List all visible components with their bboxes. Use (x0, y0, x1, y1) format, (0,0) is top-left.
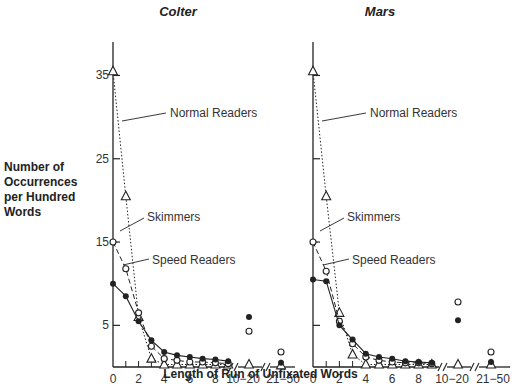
triangle-marker-icon (348, 350, 357, 359)
open-circle-marker-icon (278, 349, 284, 355)
leader-line (123, 259, 149, 265)
open-circle-marker-icon (323, 268, 329, 274)
open-circle-marker-icon (136, 310, 142, 316)
filled-circle-marker-icon (363, 351, 369, 357)
filled-circle-marker-icon (278, 360, 284, 366)
leader-line (323, 259, 349, 265)
y-tick-label: 35 (96, 68, 110, 82)
y-axis-label: Number of Occurrences per Hundred Words (4, 160, 104, 220)
annotation-normal-readers: Normal Readers (170, 106, 257, 120)
filled-circle-marker-icon (310, 277, 316, 283)
filled-circle-marker-icon (350, 337, 356, 343)
annotation-normal-readers: Normal Readers (370, 106, 457, 120)
leader-line (320, 218, 344, 231)
filled-circle-marker-icon (161, 349, 167, 355)
triangle-marker-icon (147, 354, 156, 363)
y-tick-label: 15 (96, 235, 110, 249)
filled-circle-marker-icon (416, 359, 422, 365)
panel-title: Mars (365, 4, 395, 19)
open-circle-marker-icon (455, 299, 461, 305)
open-circle-marker-icon (161, 356, 167, 362)
filled-circle-marker-icon (376, 354, 382, 360)
filled-circle-marker-icon (200, 356, 206, 362)
open-circle-marker-icon (123, 266, 129, 272)
filled-circle-marker-icon (123, 293, 129, 299)
filled-circle-marker-icon (402, 358, 408, 364)
triangle-marker-icon (121, 191, 130, 200)
open-circle-marker-icon (246, 328, 252, 334)
filled-circle-marker-icon (110, 281, 116, 287)
filled-circle-marker-icon (246, 314, 252, 320)
open-circle-marker-icon (488, 349, 494, 355)
panel-title: Colter (159, 4, 198, 19)
y-axis-label-line: Number of (4, 160, 104, 175)
leader-line (322, 113, 366, 121)
series-line-speed-readers (113, 284, 228, 361)
filled-circle-marker-icon (455, 317, 461, 323)
y-tick-label: 5 (102, 318, 109, 332)
leader-line (122, 113, 166, 121)
annotation-speed-readers: Speed Readers (352, 253, 435, 267)
open-circle-marker-icon (148, 343, 154, 349)
filled-circle-marker-icon (212, 357, 218, 363)
filled-circle-marker-icon (389, 356, 395, 362)
triangle-marker-icon (109, 66, 118, 75)
open-circle-marker-icon (110, 239, 116, 245)
y-axis-label-line: per Hundred (4, 190, 104, 205)
filled-circle-marker-icon (136, 318, 142, 324)
filled-circle-marker-icon (187, 354, 193, 360)
filled-circle-marker-icon (336, 322, 342, 328)
filled-circle-marker-icon (148, 337, 154, 343)
series-line-speed-readers (313, 280, 432, 363)
x-axis-label: Length of Run of Unfixated Words (0, 367, 521, 381)
filled-circle-marker-icon (323, 278, 329, 284)
filled-circle-marker-icon (225, 358, 231, 364)
y-axis-label-line: Occurrences (4, 175, 104, 190)
triangle-marker-icon (322, 191, 331, 200)
annotation-skimmers: Skimmers (147, 210, 200, 224)
filled-circle-marker-icon (174, 352, 180, 358)
annotation-speed-readers: Speed Readers (152, 253, 235, 267)
filled-circle-marker-icon (488, 359, 494, 365)
filled-circle-marker-icon (429, 360, 435, 366)
y-axis-label-line: Words (4, 205, 104, 220)
leader-line (120, 218, 144, 231)
annotation-skimmers: Skimmers (347, 210, 400, 224)
open-circle-marker-icon (310, 239, 316, 245)
triangle-marker-icon (309, 66, 318, 75)
